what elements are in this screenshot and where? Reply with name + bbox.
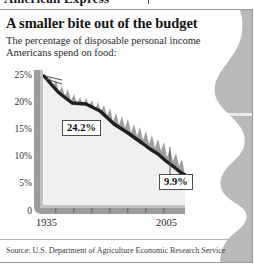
chart-subtitle: The percentage of disposable personal in… [6,35,206,58]
chart-panel: A smaller bite out of the budget The per… [0,9,253,263]
x-axis-labels: 1935 2005 [0,56,253,231]
callout-24-2-percent: 24.2% [62,120,101,136]
plot-area: 25% 20% 15% 10% 5% 0 1935 2005 24.2% 9.9… [0,56,253,231]
cut-off-header-strip: American Express [0,0,254,9]
source-note: Source: U.S. Department of Agriculture E… [6,246,225,255]
infographic-root: American Express A smaller bite out of t… [0,0,254,264]
callout-9-9-percent: 9.9% [159,174,193,190]
cut-off-header-text: American Express [4,0,109,7]
x-axis-label-start: 1935 [36,217,57,228]
source-divider [0,239,252,240]
x-axis-label-end: 2005 [156,217,177,228]
page-title: A smaller bite out of the budget [6,15,216,31]
cut-off-tick-mark [148,0,149,4]
